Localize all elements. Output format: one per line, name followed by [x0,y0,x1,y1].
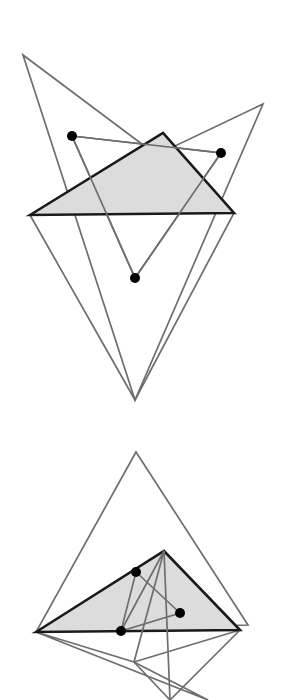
bottom-shaded-triangle [36,551,240,632]
bottom-outline-triangle-2 [36,632,208,700]
top-outline-triangle-1 [23,55,234,400]
figure-bottom [36,452,248,700]
figure-root [0,0,285,700]
top-shaded-triangle [30,133,234,215]
bottom-dot-lower [116,626,126,636]
geometry-canvas [0,0,285,700]
top-dot-left [67,131,77,141]
top-dot-bottom [130,273,140,283]
bottom-dot-upper [131,567,141,577]
bottom-dot-right [175,608,185,618]
top-dot-right [216,148,226,158]
figure-top [23,55,263,400]
